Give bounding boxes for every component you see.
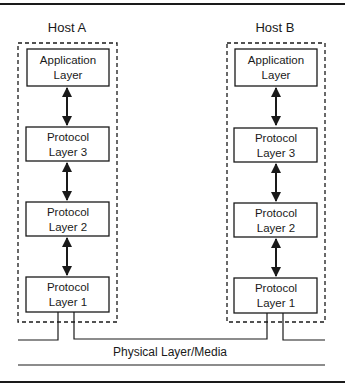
host-b-application-layer: Application Layer xyxy=(235,49,317,86)
svg-text:Layer 3: Layer 3 xyxy=(257,147,295,159)
host-a-application-layer: Application Layer xyxy=(27,49,109,86)
svg-text:Layer 1: Layer 1 xyxy=(257,297,295,309)
host-a: Host A Application Layer Protocol Layer … xyxy=(18,20,117,322)
svg-text:Layer: Layer xyxy=(54,69,83,81)
wire-a-left xyxy=(18,312,58,340)
svg-text:Protocol: Protocol xyxy=(47,281,89,293)
host-b-protocol-layer-2: Protocol Layer 2 xyxy=(234,203,317,237)
svg-text:Protocol: Protocol xyxy=(47,206,89,218)
host-b-label: Host B xyxy=(255,20,294,35)
host-a-label: Host A xyxy=(48,20,87,35)
host-a-protocol-layer-2: Protocol Layer 2 xyxy=(26,202,109,236)
protocol-stack-diagram: Host A Application Layer Protocol Layer … xyxy=(0,0,345,385)
svg-text:Layer 2: Layer 2 xyxy=(257,222,295,234)
svg-text:Application: Application xyxy=(40,54,96,66)
svg-text:Layer 2: Layer 2 xyxy=(49,221,87,233)
wire-b-right xyxy=(283,313,325,340)
host-a-protocol-layer-1: Protocol Layer 1 xyxy=(26,277,109,312)
host-b-protocol-layer-1: Protocol Layer 1 xyxy=(234,278,317,313)
svg-text:Application: Application xyxy=(248,54,304,66)
svg-text:Protocol: Protocol xyxy=(255,207,297,219)
svg-text:Layer 3: Layer 3 xyxy=(49,146,87,158)
host-b: Host B Application Layer Protocol Layer … xyxy=(227,20,325,322)
svg-text:Protocol: Protocol xyxy=(47,131,89,143)
wire-shared xyxy=(74,312,267,339)
host-b-protocol-layer-3: Protocol Layer 3 xyxy=(234,128,317,162)
svg-text:Protocol: Protocol xyxy=(255,132,297,144)
svg-text:Layer: Layer xyxy=(262,69,291,81)
media-label: Physical Layer/Media xyxy=(113,345,227,359)
svg-text:Layer 1: Layer 1 xyxy=(49,296,87,308)
svg-text:Protocol: Protocol xyxy=(255,282,297,294)
host-a-protocol-layer-3: Protocol Layer 3 xyxy=(26,127,109,161)
